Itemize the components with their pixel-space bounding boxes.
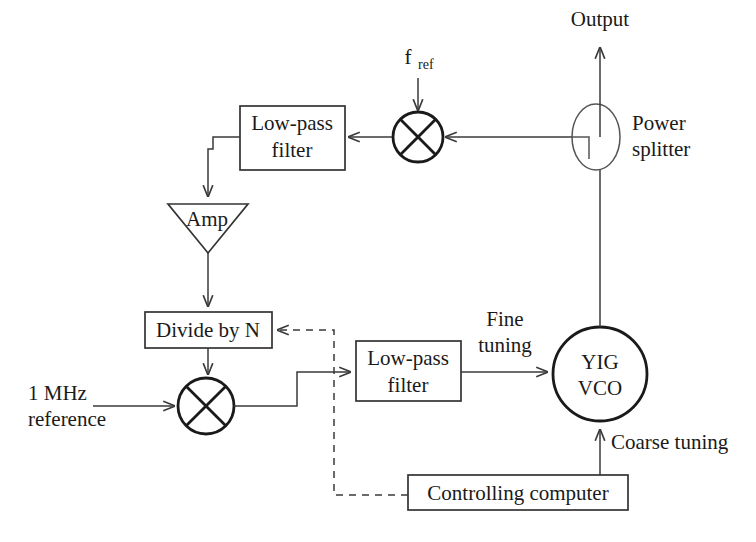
yig-vco-circle <box>553 327 647 421</box>
amp-label: Amp <box>186 207 228 231</box>
fine-tuning-label-line1: Fine <box>486 307 523 331</box>
fine-tuning-label-line2: tuning <box>478 333 532 357</box>
lpf-top-to-amp-path <box>208 137 240 196</box>
low-pass-filter-top-label-line2: filter <box>272 138 313 162</box>
reference-label-line2: reference <box>28 407 106 431</box>
output-label: Output <box>571 7 630 31</box>
f-ref-label: f <box>405 45 412 69</box>
block-diagram-canvas: f ref Output Power splitter Low-pass fil… <box>0 0 756 542</box>
coarse-tuning-label: Coarse tuning <box>611 430 729 454</box>
top-mixer-symbol <box>393 112 443 162</box>
power-splitter-label-line2: splitter <box>632 137 690 161</box>
yig-vco-label-line2: VCO <box>578 376 622 400</box>
diagram-graphics: f ref Output Power splitter Low-pass fil… <box>0 0 756 542</box>
power-splitter-label-line1: Power <box>632 111 686 135</box>
reference-label-line1: 1 MHz <box>28 381 87 405</box>
yig-vco-label-line1: YIG <box>581 350 618 374</box>
divide-by-n-label: Divide by N <box>156 318 260 342</box>
controlling-computer-label: Controlling computer <box>427 481 608 505</box>
power-splitter-symbol <box>572 104 620 170</box>
bottom-mixer-symbol <box>178 378 234 434</box>
low-pass-filter-mid-label-line1: Low-pass <box>367 346 449 370</box>
low-pass-filter-top-label-line1: Low-pass <box>251 111 333 135</box>
f-ref-subscript-label: ref <box>418 57 434 72</box>
low-pass-filter-mid-label-line2: filter <box>388 373 429 397</box>
mixer-to-lpf-mid-path <box>234 372 350 406</box>
